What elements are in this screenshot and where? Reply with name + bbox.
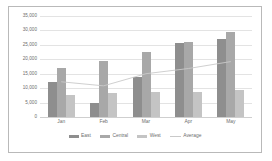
chart-plot-area: 35,00030,00025,00020,00015,00010,0005,00… bbox=[40, 16, 252, 117]
gridline: 0 bbox=[40, 117, 252, 118]
x-axis-label: Feb bbox=[82, 120, 124, 125]
bar-west bbox=[108, 93, 117, 117]
x-axis-label: Mar bbox=[125, 120, 167, 125]
legend-label: Central bbox=[112, 134, 128, 139]
bar-east bbox=[133, 77, 142, 117]
bar-group bbox=[210, 16, 252, 117]
bar-east bbox=[175, 43, 184, 117]
bar-central bbox=[226, 32, 235, 117]
bar-group bbox=[125, 16, 167, 117]
y-axis-tick-label: 30,000 bbox=[23, 28, 37, 33]
bar-west bbox=[235, 90, 244, 117]
x-axis-label: May bbox=[210, 120, 252, 125]
legend-swatch-central bbox=[100, 135, 110, 138]
y-axis-tick-label: 25,000 bbox=[23, 43, 37, 48]
legend-swatch-west bbox=[137, 135, 147, 138]
legend-item-central[interactable]: Central bbox=[100, 134, 128, 139]
bar-central bbox=[57, 68, 66, 117]
x-axis-labels: JanFebMarAprMay bbox=[40, 120, 252, 125]
bar-group bbox=[40, 16, 82, 117]
legend-item-west[interactable]: West bbox=[137, 134, 161, 139]
y-axis-tick-label: 35,000 bbox=[23, 14, 37, 19]
bar-east bbox=[90, 103, 99, 117]
bar-west bbox=[66, 95, 75, 117]
x-axis-label: Jan bbox=[40, 120, 82, 125]
legend-item-east[interactable]: East bbox=[69, 134, 91, 139]
bar-east bbox=[217, 39, 226, 117]
bar-central bbox=[99, 61, 108, 117]
bar-group bbox=[82, 16, 124, 117]
legend-label: East bbox=[81, 134, 91, 139]
y-axis-tick-label: 10,000 bbox=[23, 86, 37, 91]
legend-item-average[interactable]: Average bbox=[170, 134, 202, 139]
bar-groups bbox=[40, 16, 252, 117]
chart-plot-wrapper: 35,00030,00025,00020,00015,00010,0005,00… bbox=[9, 7, 261, 152]
y-axis-tick-label: 5,000 bbox=[25, 100, 37, 105]
y-axis-tick-label: 0 bbox=[34, 115, 37, 120]
chart-legend: EastCentralWestAverage bbox=[9, 134, 261, 139]
x-axis-label: Apr bbox=[167, 120, 209, 125]
legend-label: Average bbox=[183, 134, 201, 139]
y-axis-tick-label: 15,000 bbox=[23, 71, 37, 76]
bar-central bbox=[184, 42, 193, 117]
legend-swatch-east bbox=[69, 135, 79, 138]
bar-east bbox=[48, 82, 57, 117]
legend-label: West bbox=[150, 134, 161, 139]
legend-swatch-average bbox=[170, 136, 181, 137]
bar-west bbox=[193, 92, 202, 117]
bar-west bbox=[151, 92, 160, 117]
y-axis-tick-label: 20,000 bbox=[23, 57, 37, 62]
chart-card: 35,00030,00025,00020,00015,00010,0005,00… bbox=[8, 6, 262, 153]
bar-group bbox=[167, 16, 209, 117]
bar-central bbox=[142, 52, 151, 117]
